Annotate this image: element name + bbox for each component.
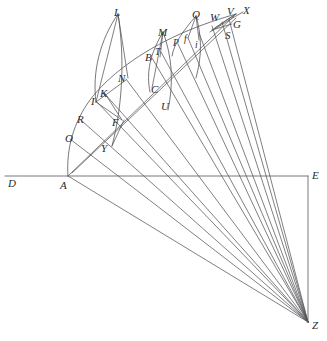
point-label-B: B: [145, 52, 152, 63]
point-label-Y: Y: [101, 143, 107, 154]
geometric-figure: LQWVXGSMTBPfiCUNKIFROYDAEZ: [0, 0, 327, 341]
ray-G-to-Z: [229, 19, 308, 322]
point-label-T: T: [155, 48, 160, 58]
ray-f-to-Z: [188, 38, 308, 322]
point-label-F: F: [112, 117, 119, 128]
point-label-M: M: [158, 27, 167, 38]
point-label-L: L: [114, 7, 120, 18]
point-label-i: i: [195, 41, 198, 51]
chord-A-to-X-inner: [72, 18, 236, 173]
point-label-D: D: [8, 178, 16, 189]
figure-canvas: [0, 0, 327, 341]
ray-K-to-Z: [104, 93, 308, 322]
ray-i-to-Z: [199, 33, 308, 322]
ray-P-to-Z: [178, 44, 308, 322]
point-label-E: E: [312, 170, 319, 181]
point-label-K: K: [100, 88, 107, 99]
point-label-W: W: [210, 12, 219, 23]
point-label-U: U: [161, 101, 169, 112]
point-label-f: f: [184, 35, 187, 45]
ray-T-to-Z: [161, 52, 308, 322]
point-label-V: V: [227, 6, 234, 17]
ray-B-to-Z: [152, 58, 308, 322]
point-label-A: A: [60, 180, 67, 191]
point-label-G: G: [233, 19, 241, 30]
ray-N-to-Z: [126, 79, 308, 322]
ray-R-to-Z: [82, 121, 308, 322]
point-label-Q: Q: [192, 9, 200, 20]
point-label-N: N: [118, 73, 125, 84]
point-label-R: R: [77, 114, 84, 125]
ray-A-to-Z: [68, 176, 308, 322]
point-label-O: O: [65, 133, 73, 144]
point-label-C: C: [151, 84, 158, 95]
arc-M-to-U: [163, 32, 171, 110]
ray-W-to-Z: [212, 26, 308, 322]
point-label-S: S: [225, 30, 231, 41]
segment-L-N: [118, 14, 128, 78]
point-label-Z: Z: [312, 320, 318, 331]
point-label-I: I: [91, 96, 95, 107]
ray-O-to-Z: [70, 139, 308, 322]
segment-M-C: [152, 32, 163, 88]
point-label-X: X: [243, 5, 250, 16]
point-label-P: P: [173, 39, 179, 49]
